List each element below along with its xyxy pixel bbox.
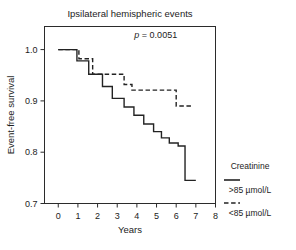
legend-label-high-creatinine: >85 µmol/L <box>229 185 272 195</box>
x-tick-label: 2 <box>95 211 100 221</box>
y-axis-label: Event-free survival <box>5 76 16 155</box>
x-tick-label: 5 <box>154 211 159 221</box>
survival-curve-high-creatinine <box>58 50 196 181</box>
survival-curve-low-creatinine <box>58 50 192 106</box>
chart-title: Ipsilateral hemispheric events <box>67 8 192 19</box>
p-value-annotation: p = 0.0051 <box>133 30 177 40</box>
y-tick-label: 1.0 <box>25 45 38 55</box>
y-axis-ticks: 0.70.80.91.0 <box>25 45 45 209</box>
y-tick-label: 0.7 <box>25 199 38 209</box>
survival-chart: Ipsilateral hemispheric events 0.70.80.9… <box>0 0 296 250</box>
x-axis-ticks: 012345678 <box>56 204 218 221</box>
legend-label-low-creatinine: <85 µmol/L <box>229 208 272 218</box>
x-axis-label: Years <box>118 224 142 235</box>
x-tick-label: 8 <box>213 211 218 221</box>
plot-frame <box>45 27 216 204</box>
legend: Creatinine >85 µmol/L <85 µmol/L <box>224 161 272 218</box>
x-tick-label: 3 <box>115 211 120 221</box>
x-tick-label: 0 <box>56 211 61 221</box>
y-tick-label: 0.8 <box>25 147 38 157</box>
x-tick-label: 1 <box>75 211 80 221</box>
kaplan-meier-figure: Ipsilateral hemispheric events 0.70.80.9… <box>0 0 296 250</box>
x-tick-label: 4 <box>134 211 139 221</box>
legend-title: Creatinine <box>231 161 270 171</box>
x-tick-label: 6 <box>174 211 179 221</box>
p-value-text: = 0.0051 <box>139 30 177 40</box>
y-tick-label: 0.9 <box>25 96 38 106</box>
x-tick-label: 7 <box>193 211 198 221</box>
